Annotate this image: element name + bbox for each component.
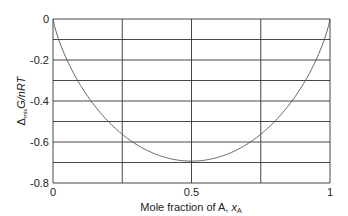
x-tick-labels: 00.51 bbox=[50, 186, 333, 198]
y-tick-labels: 0-0.2-0.4-0.6-0.8 bbox=[30, 13, 49, 189]
y-tick-label: -0.4 bbox=[30, 95, 49, 107]
x-tick-label: 0 bbox=[50, 186, 56, 198]
y-tick-label: -0.8 bbox=[30, 177, 49, 189]
y-tick-label: -0.2 bbox=[30, 54, 49, 66]
y-tick-label: -0.6 bbox=[30, 136, 49, 148]
x-tick-label: 0.5 bbox=[184, 186, 199, 198]
mixing-gibbs-chart: 0-0.2-0.4-0.6-0.8 00.51 Mole fraction of… bbox=[0, 0, 348, 216]
y-tick-label: 0 bbox=[43, 13, 49, 25]
grid bbox=[53, 19, 330, 183]
y-axis-label: ΔmixG/nRT bbox=[15, 75, 28, 125]
x-tick-label: 1 bbox=[327, 186, 333, 198]
x-axis-label: Mole fraction of A, xA bbox=[140, 201, 242, 214]
